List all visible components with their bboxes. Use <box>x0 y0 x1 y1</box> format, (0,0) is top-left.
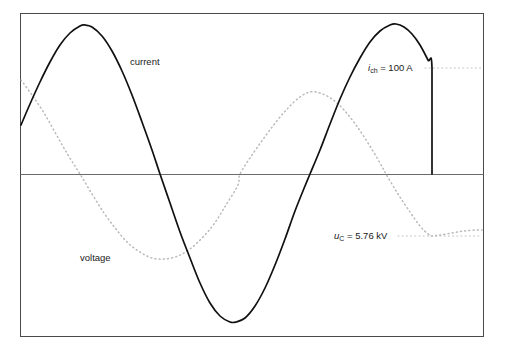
voltage-value: = 5.76 kV <box>344 230 388 241</box>
current-series-label: current <box>130 56 160 67</box>
waveform-figure: current voltage ich = 100 A uC = 5.76 kV <box>0 0 505 348</box>
current-peak-value: = 100 A <box>378 62 414 73</box>
current-peak-subscript: ch <box>370 66 378 73</box>
voltage-series-label: voltage <box>80 252 111 263</box>
waveform-svg-canvas: current voltage ich = 100 A uC = 5.76 kV <box>0 0 505 348</box>
